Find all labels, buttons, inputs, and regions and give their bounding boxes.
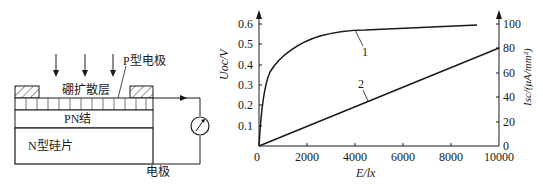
- left-y-axis-title: Uoc/V: [218, 49, 230, 80]
- y-tick-left: 0.5: [238, 38, 253, 50]
- y-tick-right: 100: [503, 18, 521, 30]
- y-tick-right: 60: [503, 67, 515, 79]
- y-tick-left: 0.6: [238, 18, 253, 30]
- ammeter-icon: [191, 117, 209, 135]
- annotation-1-leader: [355, 30, 363, 46]
- annotation-2-leader: [363, 90, 368, 101]
- annotation-1-label: 1: [362, 46, 368, 58]
- y-tick-left: 0.1: [238, 120, 253, 132]
- x-axis-title: E/lx: [356, 167, 375, 179]
- series-1-curve: [259, 25, 477, 146]
- figure-canvas: [0, 0, 543, 194]
- x-tick: 0: [254, 151, 260, 163]
- light-arrow-icon: [53, 54, 59, 77]
- boron-diffusion-layer: [15, 98, 153, 110]
- electrode-label: 电极: [146, 166, 170, 178]
- light-arrow-icon: [82, 54, 88, 77]
- y-tick-left: 0.2: [238, 99, 253, 111]
- y-tick-right: 20: [503, 116, 515, 128]
- right-axis-arrow-icon: [496, 10, 502, 19]
- p-electrode-label: P型电极: [123, 55, 166, 67]
- y-tick-right: 80: [503, 42, 515, 54]
- x-tick: 8000: [439, 151, 463, 163]
- light-arrow-icon: [110, 54, 116, 77]
- pn-junction-label: PN结: [64, 113, 91, 125]
- right-y-axis-title: Isc/(μA/mm²): [522, 48, 533, 106]
- current-arrow-icon: [180, 95, 187, 101]
- annotation-2-label: 2: [358, 78, 364, 90]
- left-axis-arrow-icon: [256, 10, 262, 19]
- y-tick-right: 40: [503, 91, 515, 103]
- x-tick: 6000: [391, 151, 415, 163]
- p-electrode-right: [130, 86, 153, 98]
- chart: [256, 10, 502, 146]
- x-tick: 10000: [484, 151, 514, 163]
- n-wafer-label: N型硅片: [28, 140, 73, 152]
- y-tick-left: 0.4: [238, 59, 253, 71]
- y-tick-left: 0.3: [238, 79, 253, 91]
- p-electrode-left: [15, 86, 39, 98]
- boron-layer-label: 硼扩散层: [62, 84, 110, 96]
- external-circuit: [153, 95, 209, 164]
- p-electrode-leader: [118, 66, 126, 98]
- series-2-line: [259, 48, 499, 146]
- x-tick: 2000: [295, 151, 319, 163]
- x-tick: 4000: [343, 151, 367, 163]
